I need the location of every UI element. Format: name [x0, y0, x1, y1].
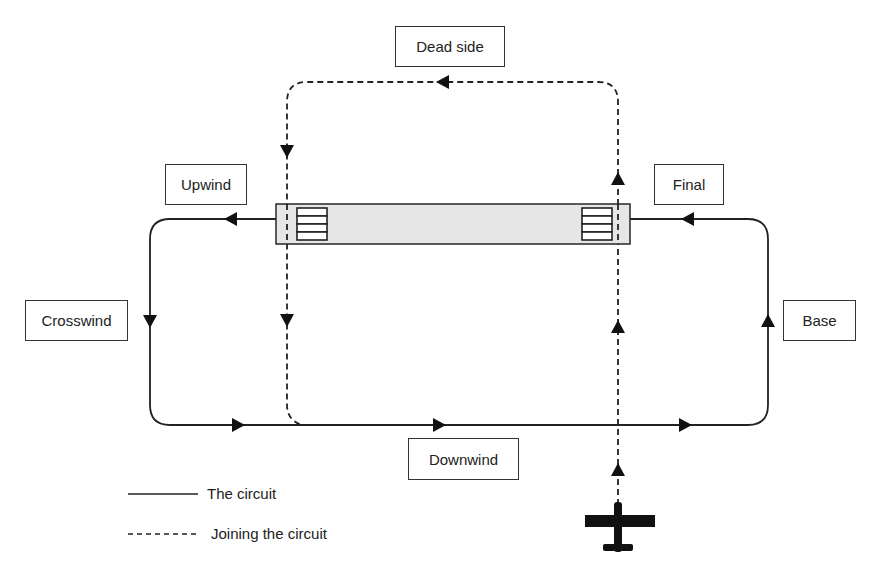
legend-solid-label: The circuit	[207, 485, 276, 502]
label-dead-side: Dead side	[395, 26, 505, 67]
label-base: Base	[783, 300, 856, 341]
label-upwind: Upwind	[165, 164, 247, 205]
aircraft-icon	[585, 502, 655, 552]
label-downwind: Downwind	[408, 438, 519, 480]
circuit-path	[150, 219, 768, 425]
arrow-head-icon	[143, 75, 775, 476]
legend-dashed-label: Joining the circuit	[211, 525, 327, 542]
label-crosswind: Crosswind	[25, 300, 128, 341]
threshold-right	[582, 208, 612, 240]
label-final: Final	[654, 164, 724, 205]
circuit-diagram	[0, 0, 878, 568]
runway	[276, 204, 630, 244]
threshold-left	[297, 208, 327, 240]
